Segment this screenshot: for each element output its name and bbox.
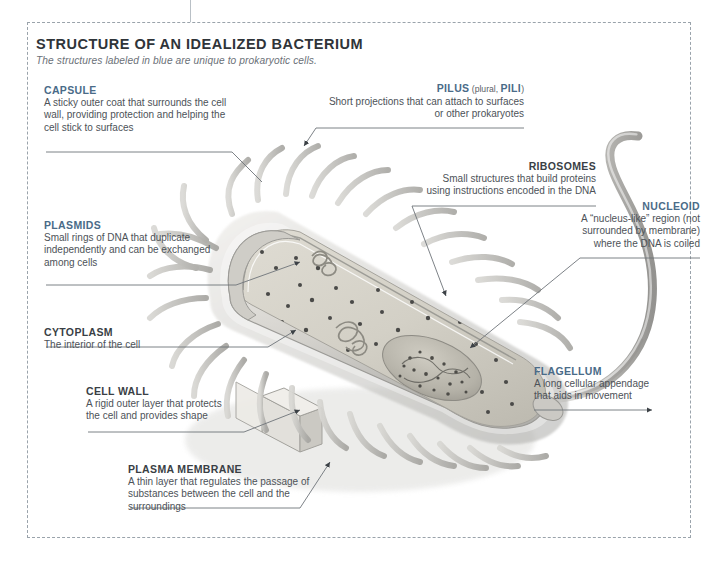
cell-wall-body: A rigid outer layer that protects the ce…: [86, 398, 236, 423]
label-ribosomes: RIBOSOMES Small structures that build pr…: [416, 160, 596, 198]
flagellum-body: A long cellular appendage that aids in m…: [534, 378, 654, 403]
label-plasmids: PLASMIDS Small rings of DNA that duplica…: [44, 219, 226, 269]
capsule-heading: CAPSULE: [44, 84, 234, 97]
nucleoid-body: A “nucleus-like” region (not surrounded …: [560, 213, 700, 250]
label-flagellum: FLAGELLUM A long cellular appendage that…: [534, 365, 654, 403]
cytoplasm-body: The interior of the cell: [44, 339, 239, 351]
ribosomes-body: Small structures that build proteins usi…: [416, 173, 596, 198]
top-tick-mark: [190, 0, 191, 22]
figure-title: STRUCTURE OF AN IDEALIZED BACTERIUM: [36, 36, 363, 52]
plasmids-heading: PLASMIDS: [44, 219, 226, 232]
pilus-heading-suffix-pre: (plural,: [469, 84, 500, 94]
plasma-membrane-heading: PLASMA MEMBRANE: [128, 463, 343, 476]
label-capsule: CAPSULE A sticky outer coat that surroun…: [44, 84, 234, 134]
flagellum-heading: FLAGELLUM: [534, 365, 654, 378]
figure-subtitle: The structures labeled in blue are uniqu…: [36, 55, 317, 66]
ribosomes-heading: RIBOSOMES: [416, 160, 596, 173]
nucleoid-heading: NUCLEOID: [560, 200, 700, 213]
label-cytoplasm: CYTOPLASM The interior of the cell: [44, 326, 239, 351]
label-plasma-membrane: PLASMA MEMBRANE A thin layer that regula…: [128, 463, 343, 513]
cytoplasm-heading: CYTOPLASM: [44, 326, 239, 339]
pilus-heading-suffix-post: ): [521, 84, 524, 94]
label-cell-wall: CELL WALL A rigid outer layer that prote…: [86, 385, 236, 423]
pilus-heading: PILUS (plural, PILI): [324, 82, 524, 96]
pilus-heading-plural: PILI: [500, 82, 521, 94]
capsule-body: A sticky outer coat that surrounds the c…: [44, 97, 234, 134]
pilus-heading-main: PILUS: [437, 82, 470, 94]
cell-wall-heading: CELL WALL: [86, 385, 236, 398]
label-pilus: PILUS (plural, PILI) Short projections t…: [324, 82, 524, 121]
plasma-membrane-body: A thin layer that regulates the passage …: [128, 476, 343, 513]
pilus-body: Short projections that can attach to sur…: [324, 96, 524, 121]
plasmids-body: Small rings of DNA that duplicate indepe…: [44, 232, 226, 269]
label-nucleoid: NUCLEOID A “nucleus-like” region (not su…: [560, 200, 700, 250]
